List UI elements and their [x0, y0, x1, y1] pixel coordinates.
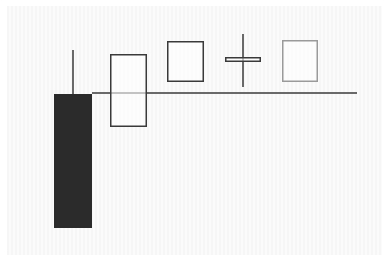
candle-body — [55, 95, 92, 228]
hollow-square-candle — [168, 42, 204, 82]
candle-body — [168, 42, 204, 82]
faded-square-candle — [283, 41, 318, 82]
doji-candle — [226, 34, 261, 87]
hollow-tall-candle — [111, 55, 147, 127]
candle-body — [283, 41, 318, 82]
dark-long-candle — [55, 50, 92, 227]
candle-body — [226, 58, 261, 62]
candlestick-diagram — [0, 0, 389, 261]
candle-body — [111, 55, 147, 127]
